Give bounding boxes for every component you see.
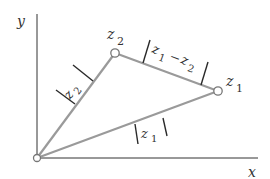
mod-bar-left (135, 124, 138, 144)
segment-origin-z1 (37, 91, 218, 158)
z2-var: z (106, 26, 115, 42)
segment-z2-z1 (115, 53, 218, 91)
mod-diff-sub1: 1 (157, 52, 167, 65)
y-axis-label: y (16, 13, 26, 29)
mod-z1-label: z 1 (135, 118, 167, 144)
mod-bar-right (201, 62, 208, 85)
mod-bar-right (163, 118, 167, 136)
mod-z2-label: z 2 (56, 65, 93, 104)
z1-point-label: z 1 (225, 73, 243, 95)
z2-point-label: z 2 (106, 26, 124, 48)
z1-sub: 1 (236, 82, 243, 95)
mod-diff-sub2: 2 (186, 62, 196, 75)
mod-z1-sub: 1 (151, 133, 157, 144)
z2-point (111, 49, 119, 57)
segment-origin-z2 (37, 53, 115, 158)
origin-point (34, 155, 41, 162)
mod-bar-left (143, 40, 150, 63)
z1-point (214, 87, 222, 95)
z1-var: z (225, 73, 234, 89)
mod-z1-var: z (140, 126, 148, 141)
complex-plane-diagram: y x z 2 z 1 − z 2 z 1 z 2 z (0, 0, 270, 179)
z2-sub: 2 (117, 35, 124, 48)
mod-diff-label: z 1 − z 2 (143, 40, 208, 85)
x-axis-label: x (248, 164, 256, 179)
mod-bar-right (73, 65, 93, 81)
